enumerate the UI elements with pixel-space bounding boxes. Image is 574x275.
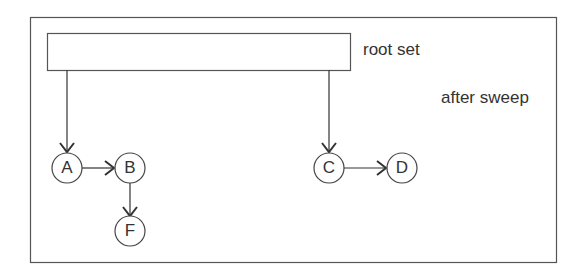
diagram-canvas [0, 0, 574, 275]
node-c-label: C [321, 158, 337, 178]
node-a-label: A [59, 158, 75, 178]
edges [60, 70, 386, 216]
node-b-label: B [122, 158, 138, 178]
outer-frame [31, 18, 557, 263]
root-set-label: root set [363, 40, 420, 60]
node-f-label: F [122, 221, 138, 241]
phase-label: after sweep [441, 88, 529, 108]
node-d-label: D [394, 158, 410, 178]
root-set-box [48, 34, 351, 71]
